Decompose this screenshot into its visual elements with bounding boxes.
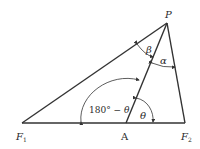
label-theta: θ — [140, 110, 146, 121]
label-p: P — [164, 9, 172, 20]
label-alpha: α — [160, 55, 167, 66]
label-f2: F2 — [180, 131, 192, 143]
side-p-f2 — [167, 23, 185, 123]
triangle-diagram: P F1 A F2 β α 180° − θ θ — [0, 0, 200, 149]
label-f1: F1 — [15, 131, 27, 143]
arc-supplement — [81, 78, 139, 122]
segment-a-p — [126, 23, 167, 123]
label-a: A — [120, 131, 129, 142]
label-beta: β — [145, 44, 152, 55]
label-supplement: 180° − θ — [89, 105, 130, 115]
